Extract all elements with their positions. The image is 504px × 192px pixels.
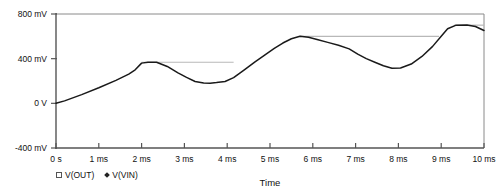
x-axis-title: Time (260, 177, 281, 188)
waveform-chart: 800 mV400 mV0 V-400 mV 0 s1 ms2 ms3 ms4 … (0, 0, 504, 192)
legend-label-vin: V(VIN) (112, 170, 138, 180)
x-axis: 0 s1 ms2 ms3 ms4 ms5 ms6 ms7 ms8 ms9 ms1… (50, 143, 495, 164)
plot-frame (55, 13, 484, 149)
chart-legend: V(OUT) V(VIN) (56, 170, 138, 180)
x-tick-label: 10 ms (472, 154, 495, 164)
x-tick-label: 8 ms (389, 154, 407, 164)
x-tick-label: 1 ms (90, 154, 108, 164)
y-tick-label: 0 V (34, 98, 47, 108)
diamond-marker-icon (104, 172, 110, 178)
legend-item-vin[interactable]: V(VIN) (105, 170, 138, 180)
x-tick-label: 4 ms (218, 154, 236, 164)
y-axis: 800 mV400 mV0 V-400 mV (15, 9, 57, 153)
x-tick-label: 3 ms (175, 154, 193, 164)
y-tick-label: 400 mV (18, 54, 48, 64)
x-tick-label: 2 ms (132, 154, 150, 164)
x-tick-label: 9 ms (432, 154, 450, 164)
legend-item-vout[interactable]: V(OUT) (56, 170, 94, 180)
square-marker-icon (56, 172, 62, 178)
y-tick-label: 800 mV (18, 9, 48, 19)
x-tick-label: 5 ms (261, 154, 279, 164)
x-tick-label: 0 s (50, 154, 61, 164)
x-tick-label: 7 ms (346, 154, 364, 164)
series-vin (142, 25, 484, 62)
y-tick-label: -400 mV (15, 143, 47, 153)
legend-label-vout: V(OUT) (65, 170, 94, 180)
plot-svg: 800 mV400 mV0 V-400 mV 0 s1 ms2 ms3 ms4 … (0, 0, 504, 192)
x-tick-label: 6 ms (304, 154, 322, 164)
